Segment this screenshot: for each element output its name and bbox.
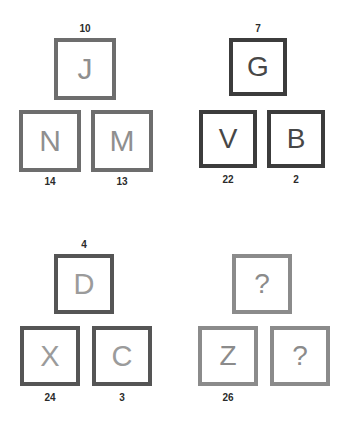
question-mark-icon: ?: [292, 342, 308, 370]
tile-letter-n: N: [39, 126, 61, 156]
tile-m[interactable]: M: [91, 110, 153, 172]
tile-number-x: 24: [20, 393, 80, 403]
tile-number-g: 7: [229, 24, 287, 34]
tile-group-bottom-right: ? Z ? 26: [177, 214, 354, 428]
tile-number-v: 22: [199, 175, 257, 185]
tile-letter-m: M: [110, 126, 135, 156]
tile-group-bottom-left: 4 D X C 24 3: [0, 214, 177, 428]
tile-number-d: 4: [54, 240, 114, 250]
tile-j[interactable]: J: [54, 38, 116, 100]
tile-b[interactable]: B: [267, 110, 325, 168]
question-mark-icon: ?: [254, 270, 270, 298]
tile-letter-g: G: [247, 53, 269, 81]
tile-number-c: 3: [92, 393, 152, 403]
tile-number-n: 14: [19, 177, 81, 187]
tile-letter-z: Z: [219, 342, 236, 370]
tile-unknown-top[interactable]: ?: [232, 254, 292, 314]
tile-number-z: 26: [198, 393, 258, 403]
tile-x[interactable]: X: [20, 326, 80, 386]
tile-c[interactable]: C: [92, 326, 152, 386]
tile-group-top-left: 10 J N M 14 13: [0, 0, 177, 214]
tile-number-b: 2: [267, 175, 325, 185]
tile-n[interactable]: N: [19, 110, 81, 172]
tile-letter-c: C: [112, 342, 133, 371]
tile-letter-x: X: [40, 342, 59, 371]
tile-number-m: 13: [91, 177, 153, 187]
tile-letter-d: D: [74, 270, 95, 299]
tile-letter-j: J: [78, 54, 93, 84]
tile-group-top-right: 7 G V B 22 2: [177, 0, 354, 214]
tile-g[interactable]: G: [229, 38, 287, 96]
tile-letter-v: V: [219, 125, 238, 153]
tile-number-j: 10: [54, 24, 116, 34]
tile-z[interactable]: Z: [198, 326, 258, 386]
tile-letter-b: B: [287, 125, 306, 153]
puzzle-canvas: 10 J N M 14 13 7 G V B 22 2 4 D: [0, 0, 354, 428]
tile-unknown-bottom-right[interactable]: ?: [270, 326, 330, 386]
tile-v[interactable]: V: [199, 110, 257, 168]
tile-d[interactable]: D: [54, 254, 114, 314]
